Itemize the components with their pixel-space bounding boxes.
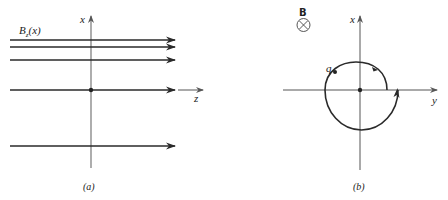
caption-b: (b) — [353, 181, 365, 193]
field-label-a: Bz(x) — [19, 24, 41, 39]
x-axis-label-a: x — [79, 13, 85, 25]
z-axis-label: z — [193, 92, 199, 104]
b-field-label: B — [299, 7, 307, 18]
x-axis-label-b: x — [349, 13, 355, 25]
into-page-icon — [297, 19, 310, 32]
charge-trajectory — [325, 90, 398, 130]
diagram-canvas: x Bz(x) z (a) B x y q — [0, 0, 448, 200]
panel-a: x Bz(x) z (a) — [10, 13, 203, 193]
y-axis-label-b: y — [431, 94, 437, 106]
panel-b: B x y q (b) — [283, 7, 437, 193]
charge-trajectory-upper — [325, 62, 387, 90]
charge-dot — [333, 70, 337, 74]
origin-dot-b — [358, 88, 362, 92]
origin-dot-a — [89, 88, 93, 92]
caption-a: (a) — [83, 181, 95, 193]
charge-label: q — [326, 62, 332, 74]
